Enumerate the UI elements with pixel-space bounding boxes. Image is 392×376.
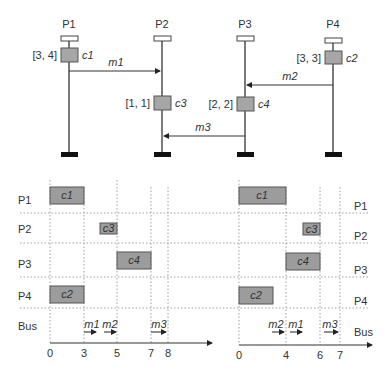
row-label: P2 xyxy=(354,230,367,242)
task-label: c1 xyxy=(61,189,73,201)
task-label: c4 xyxy=(297,255,309,267)
row-label: P3 xyxy=(354,264,367,276)
tick-label: 0 xyxy=(236,349,242,361)
row-label: P1 xyxy=(18,194,31,206)
tick-label: 8 xyxy=(165,347,171,359)
tick-label: 5 xyxy=(114,347,120,359)
row-label: Bus xyxy=(18,320,37,332)
interval-label: [2, 2] xyxy=(209,98,233,110)
message-m3: m3 xyxy=(164,121,245,136)
task-label: c4 xyxy=(128,254,140,266)
process-end-marker xyxy=(237,152,254,157)
process-start-marker xyxy=(154,36,171,41)
process-p1: P1 [3, 4] c1 xyxy=(33,18,94,157)
bus-messages: m1 m2 m3 xyxy=(84,318,168,332)
computation-box xyxy=(154,96,171,110)
schedule-right: P1 P2 P3 P4 Bus c1 c3 c4 c2 m2 m1 m3 0 4… xyxy=(236,180,374,361)
bus-messages: m2 m1 m3 xyxy=(268,318,338,332)
row-label: P1 xyxy=(354,200,367,212)
computation-label: c4 xyxy=(258,98,270,110)
message-label: m3 xyxy=(195,121,211,133)
schedule-left: P1 P2 P3 P4 Bus c1 c3 c4 c2 m1 m2 m3 0 3… xyxy=(18,180,212,359)
row-label: P4 xyxy=(18,290,31,302)
computation-box xyxy=(237,97,254,111)
process-start-marker xyxy=(61,36,78,41)
computation-box xyxy=(61,48,78,62)
computation-box xyxy=(325,51,342,64)
message-label: m1 xyxy=(108,56,123,68)
process-end-marker xyxy=(154,152,171,157)
computation-label: c3 xyxy=(175,97,188,109)
task-label: c1 xyxy=(256,189,268,201)
tick-label: 0 xyxy=(47,347,53,359)
interval-label: [1, 1] xyxy=(126,97,150,109)
process-start-marker xyxy=(237,36,254,41)
interval-label: [3, 3] xyxy=(297,52,321,64)
task-label: c2 xyxy=(61,288,73,300)
tick-label: 7 xyxy=(148,347,154,359)
process-label: P2 xyxy=(155,18,168,30)
task-label: c3 xyxy=(306,223,319,235)
task-label: c3 xyxy=(103,222,116,234)
tick-label: 7 xyxy=(337,349,343,361)
message-label: m2 xyxy=(282,70,297,82)
bus-message-label: m1 xyxy=(288,318,303,330)
process-end-marker xyxy=(61,152,78,157)
process-diagram: P1 [3, 4] c1 P2 [1, 1] c3 P3 [2, 2] c4 xyxy=(33,18,358,157)
computation-label: c2 xyxy=(346,52,358,64)
bus-message-label: m2 xyxy=(102,318,117,330)
tick-label: 3 xyxy=(81,347,87,359)
bus-message-label: m3 xyxy=(322,318,338,330)
tick-label: 6 xyxy=(317,349,323,361)
process-start-marker xyxy=(325,38,342,43)
process-p4: P4 [3, 3] c2 xyxy=(297,18,358,157)
diagram-canvas: P1 [3, 4] c1 P2 [1, 1] c3 P3 [2, 2] c4 xyxy=(0,0,392,376)
row-label: Bus xyxy=(354,326,373,338)
computation-label: c1 xyxy=(82,49,94,61)
task-label: c2 xyxy=(250,289,262,301)
message-m2: m2 xyxy=(247,70,333,85)
bus-message-label: m3 xyxy=(151,318,167,330)
row-label: P3 xyxy=(18,258,31,270)
process-label: P3 xyxy=(238,18,251,30)
process-label: P4 xyxy=(326,18,339,30)
process-end-marker xyxy=(325,152,342,157)
row-label: P4 xyxy=(354,295,367,307)
process-label: P1 xyxy=(62,18,75,30)
tick-label: 4 xyxy=(283,349,289,361)
interval-label: [3, 4] xyxy=(33,49,57,61)
row-label: P2 xyxy=(18,223,31,235)
bus-message-label: m2 xyxy=(268,318,283,330)
bus-message-label: m1 xyxy=(84,318,99,330)
